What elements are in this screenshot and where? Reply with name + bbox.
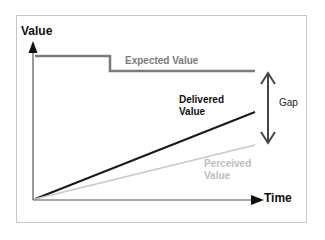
gap-label: Gap	[279, 97, 298, 108]
x-axis-arrow-icon	[251, 195, 264, 205]
perceived-value-label-line2: Value	[204, 170, 230, 181]
expected-value-label: Expected Value	[125, 55, 198, 66]
delivered-value-label-line1: Delivered	[179, 94, 224, 105]
perceived-value-label-line1: Perceived	[204, 158, 251, 169]
x-axis-label: Time	[264, 192, 292, 205]
delivered-value-label-line2: Value	[179, 106, 205, 117]
y-axis-arrow-icon	[29, 41, 38, 53]
delivered-value-line	[35, 112, 255, 199]
y-axis-label: Value	[21, 25, 52, 38]
